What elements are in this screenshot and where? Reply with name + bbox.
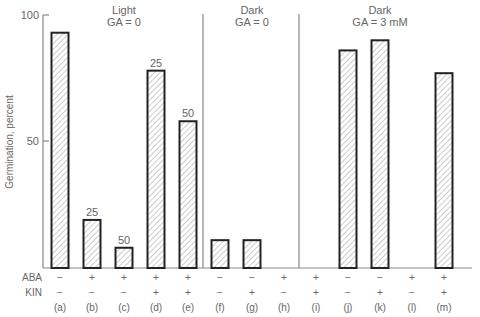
aba-value: +	[441, 272, 447, 283]
category-labels: (a)(b)(c)(d)(e)(f)(g)(h)(i)(j)(k)(l)(m)	[54, 302, 452, 313]
category-label: (a)	[54, 302, 66, 313]
aba-row-label: ABA	[22, 272, 42, 283]
category-label: (b)	[86, 302, 98, 313]
kin-value: −	[121, 287, 127, 298]
bar-annotation: 25	[150, 57, 162, 69]
bars	[52, 33, 453, 268]
kin-value: +	[377, 287, 383, 298]
category-label: (f)	[215, 302, 224, 313]
svg-text:Light: Light	[112, 4, 136, 16]
bar-a	[52, 33, 69, 268]
category-label: (m)	[437, 302, 452, 313]
aba-value: +	[313, 272, 319, 283]
group-header-light: Light GA = 0	[107, 4, 141, 28]
aba-value: −	[249, 272, 255, 283]
aba-value: +	[281, 272, 287, 283]
bar-annotation: 50	[182, 107, 194, 119]
aba-value: −	[345, 272, 351, 283]
bar-m	[436, 73, 453, 268]
y-axis: 100 50 Germination, percent	[4, 9, 49, 268]
bar-annotation: 50	[118, 234, 130, 246]
bar-k	[372, 40, 389, 268]
group-header-dark-ga0: Dark GA = 0	[235, 4, 269, 28]
bar-f	[212, 240, 229, 268]
y-tick-50: 50	[27, 135, 39, 147]
bar-c	[116, 248, 133, 268]
kin-value: −	[409, 287, 415, 298]
kin-value: +	[441, 287, 447, 298]
kin-row-label: KIN	[25, 287, 42, 298]
aba-value: +	[185, 272, 191, 283]
aba-value: +	[121, 272, 127, 283]
germination-bar-chart: 100 50 Germination, percent Light GA = 0…	[0, 0, 480, 317]
aba-value: +	[89, 272, 95, 283]
category-label: (j)	[344, 302, 353, 313]
svg-text:GA = 0: GA = 0	[107, 16, 141, 28]
bar-g	[244, 240, 261, 268]
group-header-dark-ga3: Dark GA = 3 mM	[352, 4, 407, 28]
aba-value: +	[153, 272, 159, 283]
kin-value: −	[345, 287, 351, 298]
kin-value: −	[281, 287, 287, 298]
kin-value: +	[185, 287, 191, 298]
aba-row: −++++−−++−−++	[57, 272, 447, 283]
bar-annotations: 25502550	[86, 57, 194, 246]
bar-b	[84, 220, 101, 268]
bar-j	[340, 50, 357, 268]
kin-value: −	[217, 287, 223, 298]
category-label: (k)	[374, 302, 386, 313]
kin-value: −	[89, 287, 95, 298]
category-label: (e)	[182, 302, 194, 313]
category-label: (h)	[278, 302, 290, 313]
category-label: (i)	[312, 302, 321, 313]
category-label: (g)	[246, 302, 258, 313]
bar-annotation: 25	[86, 206, 98, 218]
svg-text:GA = 3 mM: GA = 3 mM	[352, 16, 407, 28]
svg-text:Dark: Dark	[368, 4, 392, 16]
kin-value: +	[153, 287, 159, 298]
svg-text:GA = 0: GA = 0	[235, 16, 269, 28]
aba-value: −	[377, 272, 383, 283]
kin-value: +	[313, 287, 319, 298]
category-label: (c)	[118, 302, 130, 313]
aba-value: +	[409, 272, 415, 283]
bar-d	[148, 71, 165, 268]
category-label: (l)	[408, 302, 417, 313]
aba-value: −	[57, 272, 63, 283]
y-axis-label: Germination, percent	[4, 95, 15, 189]
category-label: (d)	[150, 302, 162, 313]
aba-value: −	[217, 272, 223, 283]
y-tick-100: 100	[21, 9, 39, 21]
kin-row: −−−++−+−+−+−+	[57, 287, 447, 298]
kin-value: −	[57, 287, 63, 298]
svg-text:Dark: Dark	[240, 4, 264, 16]
kin-value: +	[249, 287, 255, 298]
bar-e	[180, 121, 197, 268]
